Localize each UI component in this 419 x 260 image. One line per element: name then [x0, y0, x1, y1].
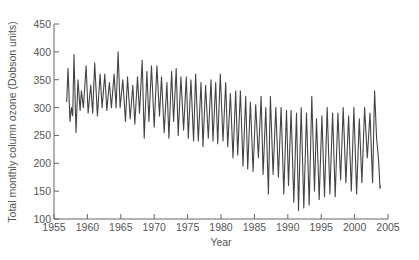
- ozone-line-chart: 1955196019651970197519801985199019952000…: [0, 0, 419, 260]
- y-tick-label: 100: [33, 213, 51, 225]
- y-tick-label: 300: [33, 102, 51, 114]
- x-tick-label: 1975: [176, 221, 200, 233]
- y-tick-label: 150: [33, 185, 51, 197]
- x-tick-label: 1965: [109, 221, 133, 233]
- y-tick-label: 400: [33, 46, 51, 58]
- x-tick-label: 1960: [76, 221, 100, 233]
- y-axis-ticks: 100150200250300350400450: [33, 18, 59, 225]
- x-tick-label: 1980: [209, 221, 233, 233]
- x-tick-label: 1995: [310, 221, 334, 233]
- ozone-series-line: [67, 52, 381, 211]
- x-tick-label: 1970: [143, 221, 167, 233]
- y-tick-label: 450: [33, 18, 51, 30]
- x-tick-label: 1990: [276, 221, 300, 233]
- y-tick-label: 200: [33, 157, 51, 169]
- x-tick-label: 2005: [376, 221, 400, 233]
- y-tick-label: 350: [33, 74, 51, 86]
- x-tick-label: 1985: [243, 221, 267, 233]
- y-axis-title: Total monthly column ozone (Dobson units…: [6, 21, 18, 222]
- x-axis-title: Year: [210, 236, 232, 248]
- x-tick-label: 2000: [343, 221, 367, 233]
- y-tick-label: 250: [33, 129, 51, 141]
- x-axis-ticks: 1955196019651970197519801985199019952000…: [42, 214, 400, 233]
